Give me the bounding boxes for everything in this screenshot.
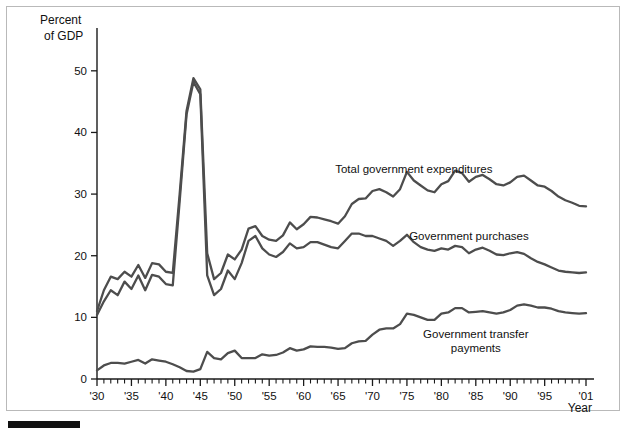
y-tick-label: 10 bbox=[74, 311, 87, 323]
series-line-1 bbox=[97, 82, 586, 315]
x-tick-label: '65 bbox=[331, 390, 346, 402]
x-tick-label: '50 bbox=[227, 390, 242, 402]
series-label-transfer-payments-line2: payments bbox=[451, 342, 501, 354]
y-tick-label: 40 bbox=[74, 126, 87, 138]
x-tick-label: '60 bbox=[296, 390, 311, 402]
x-tick-label: '80 bbox=[434, 390, 449, 402]
series-label-total-expenditures: Total government expenditures bbox=[335, 163, 493, 175]
x-tick-label: '85 bbox=[468, 390, 483, 402]
x-axis-title: Year bbox=[568, 401, 592, 415]
x-tick-label: '30 bbox=[90, 390, 105, 402]
x-tick-label: '70 bbox=[365, 390, 380, 402]
x-tick-label: '95 bbox=[537, 390, 552, 402]
series-label-government-purchases: Government purchases bbox=[409, 230, 529, 242]
series-line-0 bbox=[97, 78, 586, 311]
y-tick-label: 20 bbox=[74, 250, 87, 262]
gdp-line-chart: 01020304050'30'35'40'45'50'55'60'65'70'7… bbox=[0, 0, 629, 431]
y-tick-label: 30 bbox=[74, 188, 87, 200]
y-axis-title-line2: of GDP bbox=[44, 29, 83, 43]
x-tick-label: '45 bbox=[193, 390, 208, 402]
y-tick-label: 0 bbox=[81, 373, 87, 385]
x-tick-label: '35 bbox=[124, 390, 139, 402]
chart-page: 01020304050'30'35'40'45'50'55'60'65'70'7… bbox=[0, 0, 629, 431]
x-tick-label: '90 bbox=[503, 390, 518, 402]
y-tick-label: 50 bbox=[74, 65, 87, 77]
x-tick-label: '75 bbox=[399, 390, 414, 402]
x-tick-label: '40 bbox=[158, 390, 173, 402]
x-tick-label: '55 bbox=[262, 390, 277, 402]
y-axis-title-line1: Percent bbox=[40, 13, 82, 27]
series-label-transfer-payments-line1: Government transfer bbox=[423, 328, 529, 340]
